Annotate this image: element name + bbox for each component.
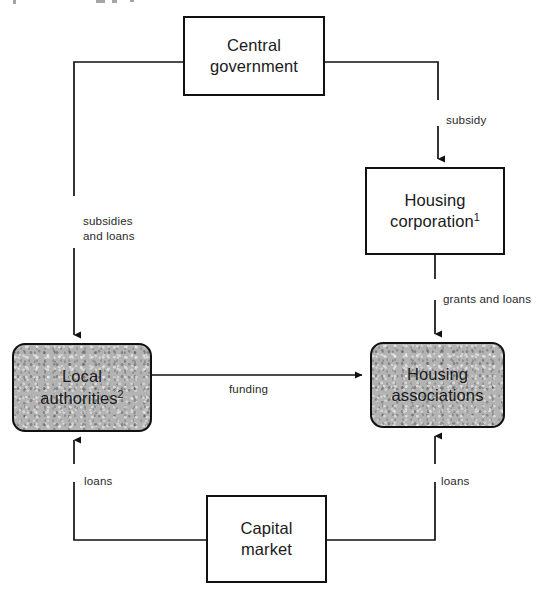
node-housing-corporation[interactable]: Housing corporation1 (365, 167, 505, 255)
node-housing-corporation-label: Housing corporation1 (386, 190, 484, 232)
node-capital-market[interactable]: Capital market (206, 495, 327, 583)
edge-label-grants-and-loans: grants and loans (443, 291, 531, 306)
footnote-marker-1: 1 (474, 211, 480, 223)
node-local-authorities-text: Local authorities (40, 367, 117, 406)
node-housing-associations[interactable]: Housing associations (370, 342, 505, 428)
edge-label-subsidies-and-loans: subsidies and loans (83, 213, 135, 244)
edge-label-subsidy: subsidy (446, 112, 486, 127)
node-capital-market-label: Capital market (236, 518, 296, 560)
scan-speck (96, 0, 105, 3)
edge-loans-local-authorities (74, 482, 206, 540)
edge-label-loans-housing-associations: loans (441, 473, 469, 488)
edge-subsidy (325, 62, 438, 100)
footnote-marker-2: 2 (118, 387, 124, 399)
scan-speck (112, 0, 117, 3)
edge-label-loans-local-authorities: loans (84, 473, 112, 488)
flow-diagram: Central government Housing corporation1 … (0, 0, 557, 593)
node-central-government-label: Central government (206, 35, 302, 77)
scan-speck (130, 0, 134, 2)
node-local-authorities-label: Local authorities2 (36, 366, 127, 408)
node-central-government[interactable]: Central government (183, 16, 325, 96)
node-housing-associations-label: Housing associations (388, 364, 488, 406)
node-local-authorities[interactable]: Local authorities2 (12, 343, 152, 432)
node-housing-corporation-text: Housing corporation (390, 191, 474, 230)
scan-speck (13, 0, 16, 4)
edge-label-funding: funding (229, 381, 268, 396)
edge-subsidies-and-loans (74, 62, 183, 196)
edge-loans-housing-associations (327, 482, 435, 540)
